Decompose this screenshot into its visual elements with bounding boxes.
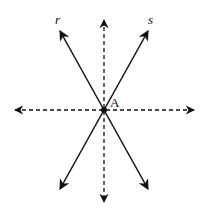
diagram-canvas: r s A bbox=[0, 0, 206, 214]
label-s: s bbox=[148, 12, 153, 27]
label-r: r bbox=[55, 12, 61, 27]
label-a: A bbox=[110, 95, 120, 110]
point-a-dot bbox=[101, 107, 107, 113]
